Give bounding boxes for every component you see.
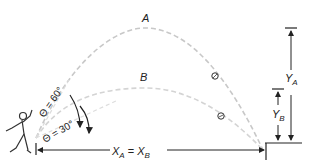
height-b-label: YB bbox=[272, 108, 285, 123]
trajectory-a-path bbox=[36, 28, 263, 150]
angle-60-label: Θ = 60° bbox=[37, 85, 66, 119]
ball-a-icon bbox=[212, 73, 218, 79]
swing-arrow-2-icon bbox=[80, 106, 89, 133]
angle-30-label: Θ = 30° bbox=[41, 118, 76, 145]
trajectory-a-label: A bbox=[141, 12, 149, 24]
trajectory-b-label: B bbox=[140, 71, 147, 83]
range-label: XA = XB bbox=[111, 145, 151, 160]
projectile-diagram: A B Θ = 60° Θ = 30° XA = XB YA YB bbox=[0, 0, 311, 165]
ball-b-icon bbox=[218, 113, 224, 119]
height-a-label: YA bbox=[285, 72, 298, 87]
batter-figure-icon bbox=[6, 110, 32, 153]
